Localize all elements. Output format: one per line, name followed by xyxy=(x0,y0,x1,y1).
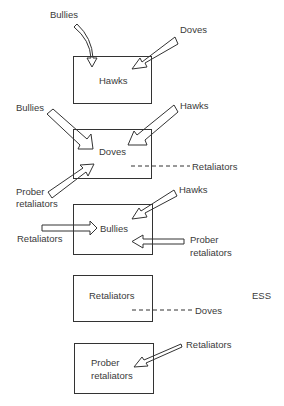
label-doves-drift: Doves xyxy=(195,305,222,316)
label-hawks-2: Hawks xyxy=(180,100,209,111)
box-bullies-label: Bullies xyxy=(100,223,128,234)
label-hawks-3: Hawks xyxy=(179,184,208,195)
box-prober-label-line2: retaliators xyxy=(91,370,133,381)
label-prober-2-line2: retaliators xyxy=(16,198,58,209)
label-ess: ESS xyxy=(252,290,271,301)
box-prober-label-line1: Prober xyxy=(91,357,120,368)
box-doves-label: Doves xyxy=(99,146,126,157)
box-retaliators-label: Retaliators xyxy=(89,290,134,301)
label-doves-1: Doves xyxy=(180,24,207,35)
box-hawks-label: Hawks xyxy=(99,75,128,86)
label-retaliators-3: Retaliators xyxy=(17,233,62,244)
label-bullies-2: Bullies xyxy=(16,102,44,113)
label-retaliators-drift: Retaliators xyxy=(192,161,237,172)
label-retaliators-5: Retaliators xyxy=(186,339,231,350)
label-bullies-1: Bullies xyxy=(50,9,78,20)
label-prober-3-line1: Prober xyxy=(190,234,219,245)
box-prober-retaliators xyxy=(74,343,154,394)
label-prober-3-line2: retaliators xyxy=(190,247,232,258)
label-prober-2-line1: Prober xyxy=(16,186,45,197)
